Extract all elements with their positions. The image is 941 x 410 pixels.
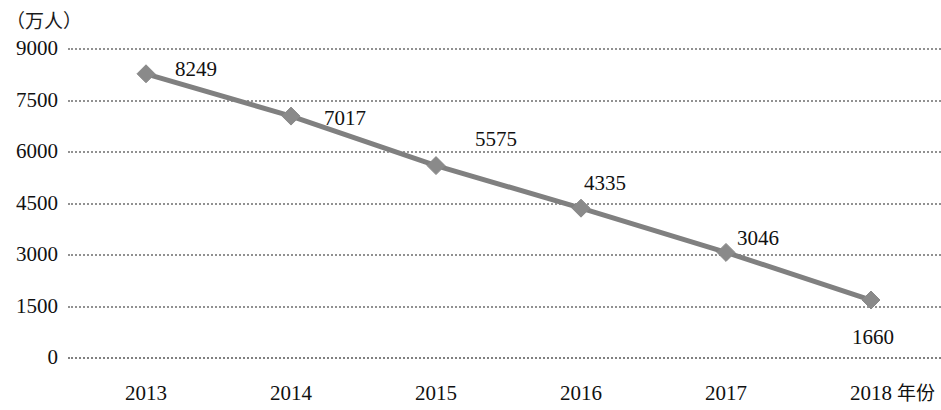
x-tick-label-2013: 2013 (125, 383, 167, 404)
y-tick-label: 0 (0, 347, 58, 368)
y-tick-label: 1500 (0, 295, 58, 316)
x-axis-title: 年份 (897, 384, 935, 403)
y-axis-tick-labels: 9000 7500 6000 4500 3000 1500 0 (0, 0, 58, 410)
x-tick-label-2014: 2014 (270, 383, 312, 404)
data-point-marker (862, 291, 880, 309)
data-point-marker (282, 107, 300, 125)
data-point-marker (572, 199, 590, 217)
point-value-label: 8249 (175, 59, 217, 80)
x-tick-label-2016: 2016 (560, 383, 602, 404)
data-point-marker (137, 65, 155, 83)
x-tick-label-2017: 2017 (705, 383, 747, 404)
point-value-label: 1660 (852, 327, 894, 348)
series-line (146, 74, 871, 300)
y-tick-label: 4500 (0, 192, 58, 213)
x-tick-label-2015: 2015 (415, 383, 457, 404)
data-point-marker (717, 243, 735, 261)
y-tick-label: 6000 (0, 141, 58, 162)
point-value-label: 4335 (584, 173, 626, 194)
point-value-label: 7017 (324, 108, 366, 129)
plot-area: 8249 7017 5575 4335 3046 1660 (68, 0, 941, 410)
line-chart: （万人） 9000 7500 6000 4500 3000 1500 0 824… (0, 0, 941, 410)
data-point-marker (427, 157, 445, 175)
y-tick-label: 3000 (0, 244, 58, 265)
y-tick-label: 9000 (0, 38, 58, 59)
point-value-label: 5575 (475, 129, 517, 150)
point-value-label: 3046 (737, 228, 779, 249)
x-tick-label-2018: 2018 (850, 383, 892, 404)
y-tick-label: 7500 (0, 89, 58, 110)
